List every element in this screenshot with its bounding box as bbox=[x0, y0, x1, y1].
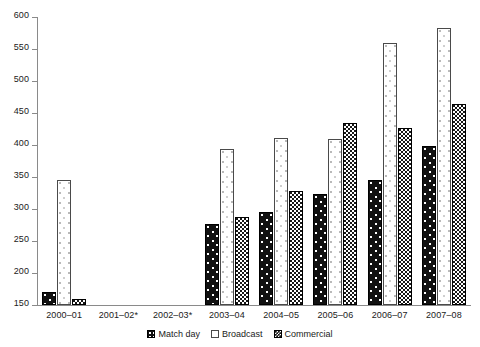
legend-label: Commercial bbox=[285, 329, 333, 339]
bar-matchday bbox=[259, 212, 273, 305]
bar-broadcast bbox=[220, 149, 234, 305]
y-tick-mark bbox=[32, 241, 37, 242]
bar-group-2006-07 bbox=[368, 17, 412, 305]
y-axis-line bbox=[37, 17, 38, 306]
x-axis-line bbox=[37, 305, 471, 306]
y-tick-mark bbox=[32, 273, 37, 274]
y-tick-mark bbox=[32, 113, 37, 114]
y-tick-label: 250 bbox=[0, 234, 29, 244]
bar-group-bars bbox=[205, 17, 249, 305]
bar-group-2007-08 bbox=[422, 17, 466, 305]
legend-item-broadcast: Broadcast bbox=[211, 329, 263, 339]
bar-group-2004-05 bbox=[259, 17, 303, 305]
bar-broadcast bbox=[274, 138, 288, 305]
bar-commercial bbox=[343, 123, 357, 305]
broadcast-swatch bbox=[211, 330, 219, 338]
bar-matchday bbox=[205, 224, 219, 305]
bar-broadcast bbox=[383, 43, 397, 305]
bar-group-bars bbox=[151, 17, 195, 305]
y-tick-mark bbox=[32, 81, 37, 82]
bar-broadcast bbox=[437, 28, 451, 305]
matchday-swatch bbox=[147, 330, 155, 338]
bar-group-2003-04 bbox=[205, 17, 249, 305]
x-axis-label: 2004–05 bbox=[254, 310, 308, 321]
commercial-swatch bbox=[274, 330, 282, 338]
legend-item-commercial: Commercial bbox=[274, 329, 333, 339]
y-tick-mark bbox=[32, 305, 37, 306]
y-tick-label: 200 bbox=[0, 266, 29, 276]
bar-broadcast bbox=[328, 139, 342, 305]
bar-matchday bbox=[313, 194, 327, 305]
bar-matchday bbox=[422, 146, 436, 305]
y-tick-label: 600 bbox=[0, 10, 29, 20]
y-tick-label: 150 bbox=[0, 298, 29, 308]
y-tick-label: 450 bbox=[0, 106, 29, 116]
x-axis-label: 2006–07 bbox=[363, 310, 417, 321]
bar-commercial bbox=[72, 299, 86, 305]
x-axis-label: 2001–02* bbox=[91, 310, 145, 321]
y-tick-mark bbox=[32, 17, 37, 18]
bar-group-2002-03- bbox=[151, 17, 195, 305]
y-tick-mark bbox=[32, 49, 37, 50]
y-tick-mark bbox=[32, 145, 37, 146]
legend-label: Broadcast bbox=[222, 329, 263, 339]
y-tick-label: 350 bbox=[0, 170, 29, 180]
bar-group-2005-06 bbox=[313, 17, 357, 305]
x-axis-label: 2000–01 bbox=[37, 310, 91, 321]
bar-commercial bbox=[452, 104, 466, 305]
legend-item-matchday: Match day bbox=[147, 329, 200, 339]
bar-group-bars bbox=[96, 17, 140, 305]
y-tick-mark bbox=[32, 209, 37, 210]
bar-group-2001-02- bbox=[96, 17, 140, 305]
y-tick-mark bbox=[32, 177, 37, 178]
bar-commercial bbox=[398, 128, 412, 305]
y-tick-label: 550 bbox=[0, 42, 29, 52]
x-axis-label: 2002–03* bbox=[146, 310, 200, 321]
bar-group-bars bbox=[422, 17, 466, 305]
bar-group-2000-01 bbox=[42, 17, 86, 305]
bar-group-bars bbox=[259, 17, 303, 305]
bar-broadcast bbox=[57, 180, 71, 305]
chart-legend: Match dayBroadcastCommercial bbox=[0, 329, 480, 339]
bar-commercial bbox=[289, 191, 303, 305]
bar-matchday bbox=[42, 292, 56, 305]
x-axis-label: 2007–08 bbox=[417, 310, 471, 321]
y-tick-label: 400 bbox=[0, 138, 29, 148]
bar-chart: 150200250300350400450500550600 2000–0120… bbox=[0, 0, 480, 347]
legend-label: Match day bbox=[158, 329, 200, 339]
bar-group-bars bbox=[313, 17, 357, 305]
y-tick-label: 500 bbox=[0, 74, 29, 84]
bar-commercial bbox=[235, 217, 249, 305]
bar-group-bars bbox=[42, 17, 86, 305]
x-axis-label: 2005–06 bbox=[308, 310, 362, 321]
y-tick-label: 300 bbox=[0, 202, 29, 212]
x-axis-label: 2003–04 bbox=[200, 310, 254, 321]
bar-matchday bbox=[368, 180, 382, 305]
bar-group-bars bbox=[368, 17, 412, 305]
